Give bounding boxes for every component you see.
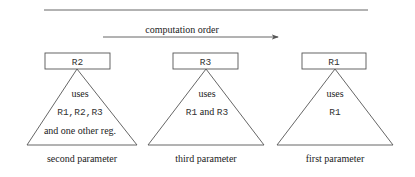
register-list: R1,R2,R3 [57,107,103,118]
caption: third parameter [175,153,237,164]
uses-label: uses [198,88,215,99]
register-label: R2 [72,57,84,68]
uses-label: uses [71,88,88,99]
extra-note: and one other reg. [44,125,116,136]
register-label: R3 [200,57,212,68]
caption: second parameter [47,153,118,164]
node-third-parameter: R3 uses R1 and R3 third parameter [148,53,264,164]
node-first-parameter: R1 uses R1 first parameter [277,53,393,164]
caption: first parameter [306,153,365,164]
uses-label: uses [326,88,343,99]
register-label: R1 [328,57,340,68]
arrow-label: computation order [145,24,219,35]
node-second-parameter: R2 uses R1,R2,R3 and one other reg. seco… [27,53,137,164]
diagram-canvas: computation order R2 uses R1,R2,R3 and o… [0,0,415,177]
register-list: R1 [329,107,341,118]
register-list: R1 and R3 [186,106,229,118]
